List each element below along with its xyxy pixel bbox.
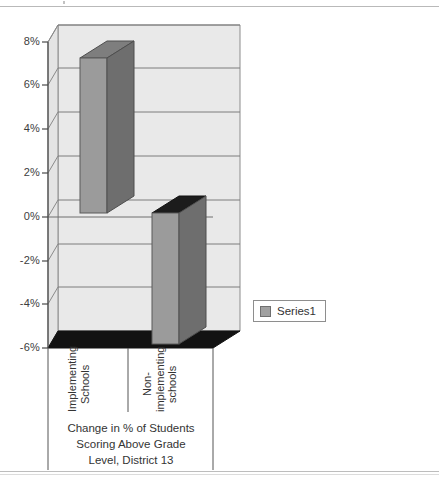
legend-swatch-series1	[260, 306, 271, 317]
y-tick-label-2: 2%	[0, 166, 40, 178]
bar-implementing-schools[interactable]	[80, 41, 134, 213]
bar-non-implementing-schools[interactable]	[152, 196, 206, 344]
category-label-implementing-schools: Implementing Schools	[66, 356, 91, 412]
y-axis-ticks	[42, 42, 48, 348]
bar-front-face	[152, 213, 179, 344]
y-tick-label-neg-2: -2%	[0, 254, 40, 266]
y-tick-label-neg-4: -4%	[0, 297, 40, 309]
legend[interactable]: Series1	[253, 300, 326, 322]
x-axis-title-line-2: Scoring Above Grade	[48, 436, 214, 452]
y-tick-label-0: 0%	[0, 210, 40, 222]
bar-side-face	[107, 41, 134, 213]
legend-label-series1: Series1	[277, 305, 316, 317]
chart-container: 8% 6% 4% 2% 0% -2% -4% -6% Implementing …	[0, 0, 439, 481]
y-tick-label-6: 6%	[0, 78, 40, 90]
category-label-non-implementing-schools: Non- implementing schools	[141, 356, 179, 412]
y-tick-label-4: 4%	[0, 122, 40, 134]
bar-side-face	[179, 196, 206, 344]
left-side-wall	[48, 25, 58, 348]
y-tick-label-neg-6: -6%	[0, 341, 40, 353]
bar-front-face	[80, 58, 107, 213]
x-axis-title-line-1: Change in % of Students	[48, 420, 214, 436]
x-axis-title-line-3: Level, District 13	[48, 452, 214, 468]
y-tick-label-8: 8%	[0, 35, 40, 47]
x-axis-title: Change in % of Students Scoring Above Gr…	[48, 420, 214, 468]
